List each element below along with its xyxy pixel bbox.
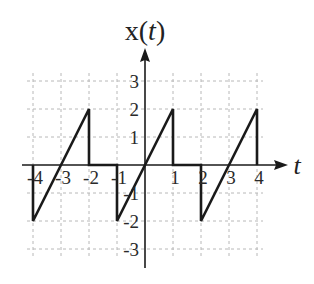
x-tick-label: -2 (83, 167, 99, 188)
x-axis-label: t (293, 151, 301, 180)
x-tick-label: -4 (27, 167, 43, 188)
y-tick-label: -2 (123, 211, 139, 232)
y-tick-label: 2 (130, 99, 140, 120)
x-axis-arrow-icon (274, 160, 288, 170)
y-tick-label: 3 (130, 71, 140, 92)
y-tick-label: -1 (123, 183, 139, 204)
y-tick-label: -3 (123, 239, 139, 260)
y-axis-arrow-icon (140, 48, 150, 62)
x-tick-label: -3 (55, 167, 71, 188)
x-tick-label: 1 (170, 167, 180, 188)
chart-title: x(t) (125, 15, 165, 46)
x-tick-label: 3 (226, 167, 236, 188)
x-tick-label: 4 (254, 167, 264, 188)
y-tick-label: 1 (130, 127, 140, 148)
signal-plot: x(t) t -4-3-2-11234 321-1-2-3 (0, 0, 314, 284)
x-tick-label: 2 (198, 167, 208, 188)
